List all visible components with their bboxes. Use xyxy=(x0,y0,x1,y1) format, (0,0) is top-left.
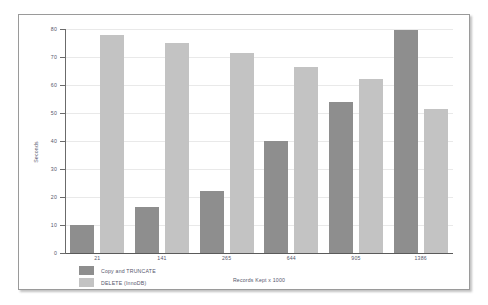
y-tick-30 xyxy=(60,169,66,170)
y-axis-tick-labels: 01020304050607080 xyxy=(19,29,57,253)
y-tick-50 xyxy=(60,113,66,114)
x-tick-label-905: 905 xyxy=(351,255,360,261)
bar-265-delete-innodb[interactable] xyxy=(230,53,254,253)
y-tick-label-30: 30 xyxy=(23,166,57,172)
bar-group-21 xyxy=(70,29,124,253)
bar-905-copy-truncate[interactable] xyxy=(329,102,353,253)
legend-item-copy-truncate[interactable]: Copy and TRUNCATE xyxy=(79,265,229,276)
bar-265-copy-truncate[interactable] xyxy=(200,191,224,253)
plot-area xyxy=(65,29,453,253)
bar-group-905 xyxy=(329,29,383,253)
x-tick-label-21: 21 xyxy=(94,255,100,261)
y-tick-label-40: 40 xyxy=(23,138,57,144)
legend-swatch-1 xyxy=(79,278,94,287)
legend-label-1: DELETE (InnoDB) xyxy=(101,280,146,286)
y-tick-label-50: 50 xyxy=(23,110,57,116)
y-tick-10 xyxy=(60,225,66,226)
bar-1386-copy-truncate[interactable] xyxy=(394,30,418,253)
x-tick-label-644: 644 xyxy=(287,255,296,261)
bar-21-delete-innodb[interactable] xyxy=(100,35,124,253)
y-tick-60 xyxy=(60,85,66,86)
bar-644-copy-truncate[interactable] xyxy=(264,141,288,253)
y-tick-80 xyxy=(60,29,66,30)
y-tick-20 xyxy=(60,197,66,198)
chart-legend: Copy and TRUNCATEDELETE (InnoDB) xyxy=(79,265,229,289)
x-tick-label-141: 141 xyxy=(157,255,166,261)
bar-group-1386 xyxy=(394,29,448,253)
bar-group-644 xyxy=(264,29,318,253)
bar-644-delete-innodb[interactable] xyxy=(294,67,318,253)
legend-item-delete-innodb[interactable]: DELETE (InnoDB) xyxy=(79,277,229,288)
y-tick-label-0: 0 xyxy=(23,250,57,256)
bar-1386-delete-innodb[interactable] xyxy=(424,109,448,253)
figure-frame: Seconds 01020304050607080 21141265644905… xyxy=(18,14,470,290)
bar-chart: Seconds 01020304050607080 21141265644905… xyxy=(19,15,469,289)
bar-905-delete-innodb[interactable] xyxy=(359,79,383,253)
x-tick-label-1386: 1386 xyxy=(414,255,426,261)
y-tick-40 xyxy=(60,141,66,142)
y-tick-0 xyxy=(60,253,66,254)
bar-group-265 xyxy=(200,29,254,253)
y-tick-label-20: 20 xyxy=(23,194,57,200)
bar-21-copy-truncate[interactable] xyxy=(70,225,94,253)
y-tick-70 xyxy=(60,57,66,58)
y-tick-label-70: 70 xyxy=(23,54,57,60)
x-tick-label-265: 265 xyxy=(222,255,231,261)
bar-141-delete-innodb[interactable] xyxy=(165,43,189,253)
legend-swatch-0 xyxy=(79,266,94,275)
legend-label-0: Copy and TRUNCATE xyxy=(101,268,156,274)
y-tick-label-10: 10 xyxy=(23,222,57,228)
bar-141-copy-truncate[interactable] xyxy=(135,207,159,253)
gridline-0 xyxy=(65,253,453,254)
y-tick-label-80: 80 xyxy=(23,26,57,32)
y-tick-label-60: 60 xyxy=(23,82,57,88)
bar-group-141 xyxy=(135,29,189,253)
bars-layer xyxy=(65,29,453,253)
